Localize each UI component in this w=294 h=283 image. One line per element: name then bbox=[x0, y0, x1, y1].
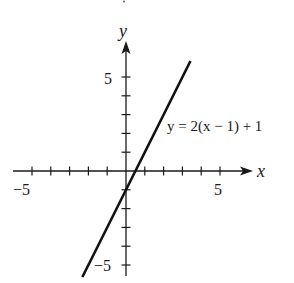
x-axis-label: x bbox=[256, 161, 265, 181]
y-tick-label-5: 5 bbox=[104, 70, 112, 87]
y-axis-label: y bbox=[117, 21, 127, 41]
x-tick-label-5: 5 bbox=[214, 181, 222, 198]
y-axis bbox=[122, 41, 131, 276]
stray-dot bbox=[123, 1, 125, 3]
series-line-y-equals-2x-minus-1 bbox=[82, 61, 190, 277]
equation-label: y = 2(x − 1) + 1 bbox=[167, 118, 262, 135]
x-tick-label-neg5: −5 bbox=[13, 181, 30, 198]
y-tick-label-neg5: −5 bbox=[94, 257, 111, 274]
coordinate-plane: x y −5 5 5 −5 y = 2(x − 1) + 1 bbox=[0, 0, 294, 283]
